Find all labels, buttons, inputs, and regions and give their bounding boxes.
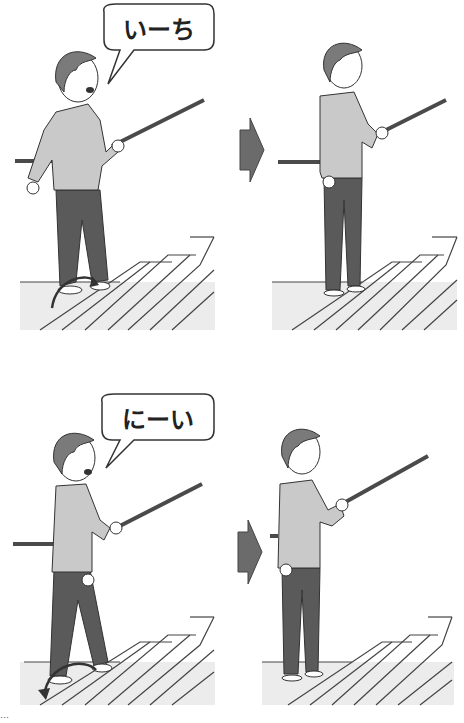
panel-step-2-result bbox=[232, 380, 464, 710]
panel-step-1-action: いーち bbox=[0, 0, 232, 340]
caption: … bbox=[0, 710, 464, 723]
panel-step-1-result bbox=[232, 0, 464, 340]
panel-step-2-action: にーい bbox=[0, 380, 232, 710]
right-arrow-icon bbox=[238, 520, 262, 584]
speech-text: にーい bbox=[122, 406, 194, 434]
speech-bubble: にーい bbox=[102, 394, 214, 468]
speech-text: いーち bbox=[123, 16, 195, 44]
speech-bubble: いーち bbox=[104, 4, 214, 84]
right-arrow-icon bbox=[240, 118, 264, 182]
